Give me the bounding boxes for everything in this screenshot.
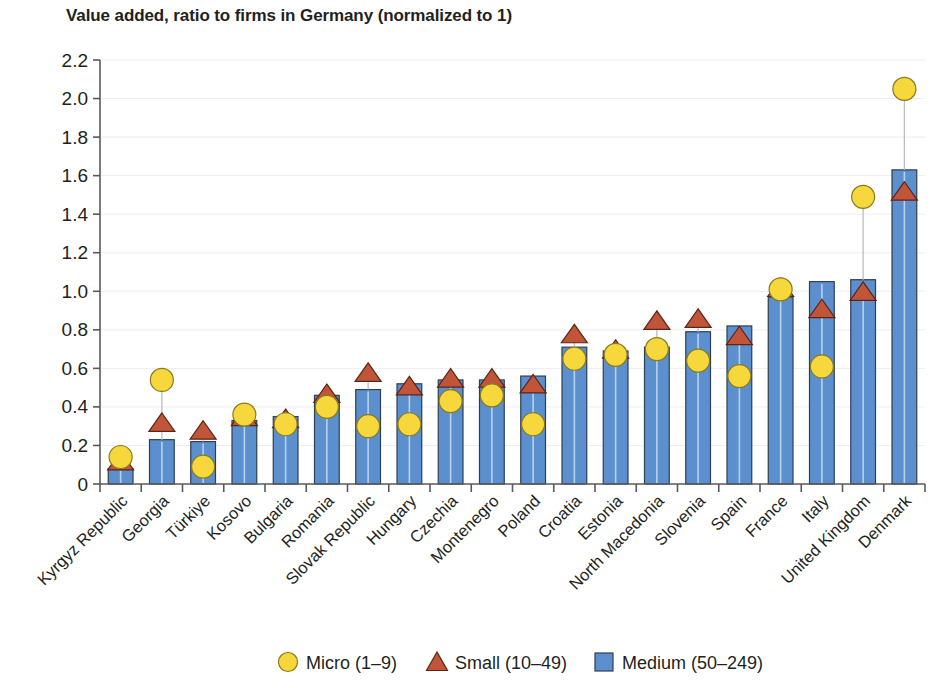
y-tick-label: 0.6 [62, 358, 88, 379]
marker-micro [357, 415, 380, 438]
y-tick-label: 2.2 [62, 50, 88, 71]
legend-circle-icon [279, 653, 298, 672]
axes [100, 60, 925, 484]
marker-micro [233, 403, 256, 426]
x-tick-label: Italy [798, 491, 833, 526]
y-tick-label: 0.2 [62, 435, 88, 456]
y-tick-label: 1.6 [62, 165, 88, 186]
marker-small [355, 363, 381, 381]
x-tick-label: Georgia [118, 491, 173, 546]
marker-micro [480, 384, 503, 407]
y-tick-label: 1.4 [62, 204, 89, 225]
x-tick-label: Türkiye [162, 491, 213, 542]
marker-small [685, 309, 711, 327]
bar-united-kingdom[interactable] [851, 280, 876, 484]
marker-small [561, 324, 587, 342]
x-axis-ticks: Kyrgyz RepublicGeorgiaTürkiyeKosovoBulga… [34, 484, 925, 593]
marker-micro [687, 349, 710, 372]
legend-item-square[interactable]: Medium (50–249) [595, 653, 763, 673]
bar-france[interactable] [768, 297, 793, 484]
x-tick-label: Kyrgyz Republic [34, 491, 131, 588]
marker-micro [563, 347, 586, 370]
marker-micro [439, 390, 462, 413]
marker-micro [274, 413, 297, 436]
y-tick-label: 1.0 [62, 281, 88, 302]
bar-kosovo[interactable] [232, 420, 257, 484]
marker-small [644, 311, 670, 329]
legend-label: Medium (50–249) [622, 653, 763, 673]
legend-triangle-icon [427, 652, 448, 671]
marker-micro [109, 446, 132, 469]
marker-small [190, 421, 216, 439]
marker-micro [769, 278, 792, 301]
marker-micro [893, 77, 916, 100]
y-tick-label: 0.8 [62, 319, 88, 340]
bar-kyrgyz-republic[interactable] [108, 469, 133, 484]
gridlines [100, 60, 925, 445]
y-tick-label: 2.0 [62, 88, 88, 109]
marker-micro [728, 365, 751, 388]
marker-micro [645, 338, 668, 361]
x-tick-label: France [742, 491, 791, 540]
marker-micro [852, 185, 875, 208]
marker-micro [810, 355, 833, 378]
marker-micro [192, 455, 215, 478]
marker-micro [150, 368, 173, 391]
legend-label: Micro (1–9) [306, 653, 397, 673]
bar-spain[interactable] [727, 326, 752, 484]
legend: Micro (1–9)Small (10–49)Medium (50–249) [279, 652, 764, 673]
x-tick-label: Poland [494, 491, 543, 540]
value-added-bar-chart: 00.20.40.60.81.01.21.41.61.82.02.2Kyrgyz… [0, 0, 930, 688]
bars-group [108, 170, 917, 484]
chart-container: 00.20.40.60.81.01.21.41.61.82.02.2Kyrgyz… [0, 0, 930, 688]
marker-small [438, 369, 464, 387]
y-tick-label: 1.2 [62, 242, 88, 263]
y-tick-label: 0.4 [62, 396, 89, 417]
marker-micro [315, 395, 338, 418]
legend-square-icon [595, 653, 613, 671]
legend-item-circle[interactable]: Micro (1–9) [279, 653, 398, 674]
bar-georgia[interactable] [150, 440, 175, 484]
bar-north-macedonia[interactable] [645, 347, 670, 484]
bar-estonia[interactable] [603, 351, 628, 484]
marker-micro [604, 343, 627, 366]
legend-item-triangle[interactable]: Small (10–49) [427, 652, 568, 673]
y-tick-label: 0 [77, 474, 88, 495]
legend-label: Small (10–49) [455, 653, 567, 673]
marker-small [149, 413, 175, 431]
y-tick-label: 1.8 [62, 127, 88, 148]
marker-micro [522, 413, 545, 436]
marker-micro [398, 413, 421, 436]
y-axis-ticks: 00.20.40.60.81.01.21.41.61.82.02.2 [62, 50, 100, 495]
bar-denmark[interactable] [892, 170, 917, 484]
